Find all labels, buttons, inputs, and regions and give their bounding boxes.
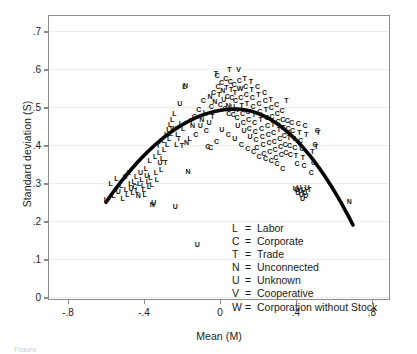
scatter-point-C: C [193, 130, 198, 137]
scatter-point-C: C [237, 76, 242, 83]
legend-label: Labor [257, 222, 284, 235]
scatter-point-T: T [284, 96, 288, 103]
x-tick-label: 0 [217, 307, 223, 318]
legend-row: W=Corporation without Stock [232, 301, 377, 314]
scatter-point-C: C [269, 104, 274, 111]
scatter-point-C: C [263, 155, 268, 162]
scatter-point-L: L [127, 168, 131, 175]
y-tick-label: .2 [33, 216, 41, 227]
legend-label: Unconnected [257, 261, 319, 274]
scatter-point-C: C [243, 82, 248, 89]
scatter-point-C: C [204, 127, 209, 134]
scatter-point-C: C [262, 89, 267, 96]
scatter-point-N: N [234, 105, 239, 112]
scatter-point-T: T [243, 74, 247, 81]
scatter-point-U: U [232, 135, 237, 142]
scatter-point-V: V [236, 66, 241, 73]
scatter-point-C: C [244, 91, 249, 98]
legend-equals: = [245, 274, 257, 287]
legend-row: N=Unconnected [232, 261, 377, 274]
scatter-point-N: N [212, 98, 217, 105]
scatter-point-T: T [314, 142, 318, 149]
scatter-point-C: C [270, 112, 275, 119]
y-tick-label: .3 [33, 178, 41, 189]
scatter-point-C: C [239, 140, 244, 147]
scatter-point-L: L [159, 165, 163, 172]
scatter-point-C: C [253, 127, 258, 134]
scatter-point-C: C [254, 136, 259, 143]
scatter-point-U: U [247, 133, 252, 140]
scatter-point-C: C [232, 80, 237, 87]
scatter-point-C: C [288, 150, 293, 157]
scatter-point-C: C [257, 99, 262, 106]
scatter-point-L: L [109, 180, 113, 187]
scatter-point-U: U [195, 241, 200, 248]
legend-key: N [232, 261, 245, 274]
legend-equals: = [245, 261, 257, 274]
y-tick-label: .4 [33, 140, 41, 151]
scatter-point-T: T [240, 101, 244, 108]
scatter-point-T: T [301, 153, 305, 160]
scatter-point-T: T [256, 91, 260, 98]
legend-label: Corporation without Stock [257, 301, 377, 314]
scatter-point-C: C [266, 130, 271, 137]
x-tick-label: -.8 [62, 307, 74, 318]
legend-key: W [232, 301, 245, 314]
y-tick-label: .5 [33, 102, 41, 113]
scatter-point-C: C [240, 110, 245, 117]
scatter-point-C: C [292, 143, 297, 150]
scatter-point-N: N [136, 192, 141, 199]
scatter-point-L: L [149, 180, 153, 187]
scatter-point-C: C [211, 89, 216, 96]
scatter-point-T: T [316, 128, 320, 135]
scatter-point-C: C [287, 142, 292, 149]
legend-key: U [232, 274, 245, 287]
scatter-point-C: C [260, 133, 265, 140]
scatter-point-C: C [303, 122, 308, 129]
figure-caption: Figure [14, 345, 37, 352]
scatter-point-U: U [198, 122, 203, 129]
legend-equals: = [245, 222, 257, 235]
scatter-point-C: C [251, 148, 256, 155]
scatter-point-T: T [264, 105, 268, 112]
scatter-point-C: C [289, 118, 294, 125]
scatter-point-C: C [238, 93, 243, 100]
scatter-point-C: C [196, 105, 201, 112]
scatter-point-C: C [290, 127, 295, 134]
scatter-point-N: N [183, 82, 188, 89]
x-axis-title: Mean (M) [48, 330, 390, 342]
scatter-point-U: U [241, 127, 246, 134]
scatter-point-L: L [104, 196, 108, 203]
scatter-point-L: L [148, 157, 152, 164]
scatter-point-U: U [206, 118, 211, 125]
scatter-point-C: C [208, 143, 213, 150]
scatter-point-T: T [210, 112, 214, 119]
scatter-point-C: C [299, 145, 304, 152]
legend-label: Unknown [257, 274, 301, 287]
scatter-point-N: N [186, 168, 191, 175]
scatter-point-C: C [309, 168, 314, 175]
scatter-point-C: C [298, 136, 303, 143]
scatter-point-T: T [259, 116, 263, 123]
scatter-point-C: C [265, 122, 270, 129]
scatter-point-C: C [201, 96, 206, 103]
scatter-point-C: C [272, 137, 277, 144]
scatter-point-C: C [279, 107, 284, 114]
legend-key: C [232, 235, 245, 248]
scatter-plot-figure: Standard deviation (S) Mean (M) 0.1.2.3.… [0, 0, 417, 354]
scatter-point-L: L [181, 124, 185, 131]
plot-frame: 0.1.2.3.4.5.6.7 -.8-.40.4.8 LLLLULLCLLLL… [48, 15, 390, 300]
scatter-point-C: C [273, 146, 278, 153]
legend-row: L=Labor [232, 222, 377, 235]
scatter-point-C: C [259, 124, 264, 131]
x-tick-label: -.4 [138, 307, 150, 318]
scatter-point-C: C [257, 108, 262, 115]
scatter-point-T: T [249, 85, 253, 92]
scatter-point-T: T [304, 130, 308, 137]
legend-row: U=Unknown [232, 274, 377, 287]
scatter-point-N: N [199, 115, 204, 122]
scatter-point-C: C [269, 157, 274, 164]
scatter-point-U: U [173, 203, 178, 210]
legend-equals: = [245, 301, 257, 314]
scatter-point-C: C [274, 160, 279, 167]
